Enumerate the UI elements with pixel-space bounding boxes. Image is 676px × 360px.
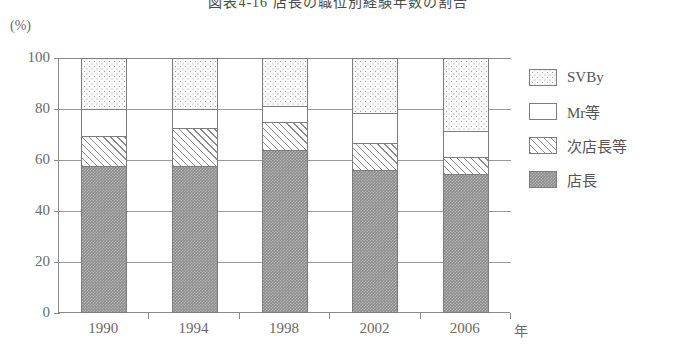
y-axis-tick-label: 40 [6,203,50,218]
y-axis-tick-label: 60 [6,152,50,167]
x-axis-tick-label: 2002 [359,320,389,337]
chart-legend: SVByMr等次店長等店長 [529,60,674,196]
stacked-bar[interactable] [172,58,218,313]
y-axis-tick-mark [54,313,60,314]
bar-segment-次店長等[interactable] [262,122,308,150]
x-axis-tick-mark [148,313,149,319]
stacked-bar[interactable] [262,58,308,313]
bar-segment-SVBy[interactable] [262,58,308,106]
bar-segment-Mr等[interactable] [352,113,398,144]
bar-segment-Mr等[interactable] [81,109,127,136]
bar-segment-Mr等[interactable] [443,131,489,158]
bar-segment-店長[interactable] [352,170,398,313]
x-axis-tick-labels: 19901994199820022006 [58,320,510,344]
legend-swatch-店長 [529,171,557,188]
x-axis-tick-mark [329,313,330,319]
stacked-bar[interactable] [81,58,127,313]
legend-swatch-次店長等 [529,137,557,154]
x-axis-tick-mark [510,313,511,319]
y-axis-tick-label: 80 [6,101,50,116]
legend-label: 店長 [567,169,597,190]
bar-segment-店長[interactable] [443,174,489,313]
bar-group [59,58,511,313]
bar-segment-SVBy[interactable] [172,58,218,109]
y-axis-tick-label: 0 [6,305,50,320]
y-axis-tick-label: 20 [6,254,50,269]
legend-swatch-Mr等 [529,103,557,120]
bar-segment-店長[interactable] [172,166,218,313]
legend-item[interactable]: Mr等 [529,94,674,128]
bar-slot [149,58,239,313]
chart-figure: 図表4-16 店長の職位別経験年数の割合 (%) 020406080100 19… [0,0,676,360]
legend-label: Mr等 [567,101,600,122]
y-axis-tick-label: 100 [6,50,50,65]
bar-segment-店長[interactable] [262,150,308,313]
bar-segment-次店長等[interactable] [81,136,127,167]
x-axis-tick-label: 1998 [269,320,299,337]
bar-segment-SVBy[interactable] [81,58,127,109]
x-axis-tick-label: 2006 [450,320,480,337]
plot-area [58,58,510,313]
legend-label: SVBy [567,69,604,86]
bar-segment-店長[interactable] [81,166,127,313]
bar-slot [330,58,420,313]
bar-slot [240,58,330,313]
bar-segment-SVBy[interactable] [352,58,398,113]
bar-segment-次店長等[interactable] [352,143,398,170]
bar-segment-次店長等[interactable] [172,128,218,166]
legend-item[interactable]: 店長 [529,162,674,196]
legend-item[interactable]: SVBy [529,60,674,94]
chart-title: 図表4-16 店長の職位別経験年数の割合 [0,0,676,11]
bar-segment-Mr等[interactable] [262,106,308,121]
x-axis-tick-label: 1994 [179,320,209,337]
x-axis-tick-mark [239,313,240,319]
legend-swatch-SVBy [529,69,557,86]
bar-segment-SVBy[interactable] [443,58,489,131]
bar-slot [421,58,511,313]
bar-segment-次店長等[interactable] [443,157,489,174]
x-axis-tick-label: 1990 [88,320,118,337]
stacked-bar[interactable] [352,58,398,313]
legend-item[interactable]: 次店長等 [529,128,674,162]
stacked-bar[interactable] [443,58,489,313]
bar-slot [59,58,149,313]
y-axis-unit-label: (%) [10,18,31,34]
x-axis-unit-label: 年 [514,320,528,340]
bar-segment-Mr等[interactable] [172,109,218,128]
x-axis-tick-mark [420,313,421,319]
legend-label: 次店長等 [567,135,627,156]
